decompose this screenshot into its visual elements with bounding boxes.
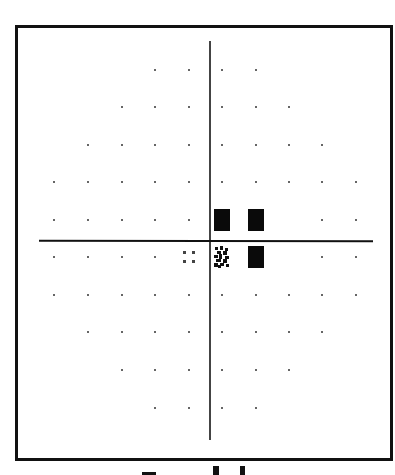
dot-icon xyxy=(188,69,191,72)
field-point-dot xyxy=(113,208,131,232)
field-point-dot xyxy=(79,208,97,232)
dot-icon xyxy=(355,256,358,259)
field-point-dot xyxy=(213,58,231,82)
dot-icon xyxy=(288,144,291,147)
field-point-dot xyxy=(113,170,131,194)
black-square-icon xyxy=(248,209,264,231)
field-point-dot xyxy=(146,208,164,232)
field-point-dot xyxy=(146,245,164,269)
field-point-dot xyxy=(180,133,198,157)
field-point-dot xyxy=(313,170,331,194)
dot-icon xyxy=(154,106,157,109)
dot-icon xyxy=(188,144,191,147)
field-point-dot xyxy=(280,133,298,157)
dot-icon xyxy=(221,369,224,372)
dot-icon xyxy=(255,407,258,410)
dot-icon xyxy=(255,144,258,147)
field-point-dot xyxy=(347,283,365,307)
field-point-dot xyxy=(213,358,231,382)
field-point-dot xyxy=(146,396,164,420)
field-point-dot xyxy=(146,95,164,119)
dot-icon xyxy=(53,294,56,297)
dot-icon xyxy=(87,219,90,222)
dot-icon xyxy=(255,181,258,184)
dot-icon xyxy=(321,331,324,334)
black-square-icon xyxy=(248,246,264,268)
field-point-dot xyxy=(113,133,131,157)
dot-icon xyxy=(255,369,258,372)
dot-icon xyxy=(87,331,90,334)
dot-icon xyxy=(321,294,324,297)
field-point-dot xyxy=(313,133,331,157)
field-point-dot xyxy=(180,95,198,119)
dot-icon xyxy=(121,181,124,184)
dot-icon xyxy=(154,294,157,297)
field-point-dot xyxy=(180,283,198,307)
dot-icon xyxy=(154,331,157,334)
dot-icon xyxy=(221,331,224,334)
dot-icon xyxy=(154,144,157,147)
dot-icon xyxy=(255,69,258,72)
field-point-dot xyxy=(313,320,331,344)
field-point-dot xyxy=(45,208,63,232)
dot-icon xyxy=(221,294,224,297)
dot-icon xyxy=(321,256,324,259)
dot-icon xyxy=(355,294,358,297)
field-point-dot xyxy=(180,58,198,82)
dot-icon xyxy=(188,294,191,297)
field-point-dot xyxy=(313,283,331,307)
dot-icon xyxy=(154,256,157,259)
dot-icon xyxy=(53,256,56,259)
field-point-dot xyxy=(146,133,164,157)
field-point-dot xyxy=(146,58,164,82)
field-point-dot xyxy=(280,358,298,382)
field-point-dot xyxy=(113,358,131,382)
field-point-black xyxy=(247,208,265,232)
field-point-dot xyxy=(213,320,231,344)
field-point-dot xyxy=(180,320,198,344)
field-point-dot xyxy=(146,283,164,307)
dot-icon xyxy=(154,69,157,72)
field-point-dot xyxy=(146,320,164,344)
dot-icon xyxy=(288,181,291,184)
field-point-dot xyxy=(113,245,131,269)
field-point-dot xyxy=(180,170,198,194)
plot-frame xyxy=(15,25,393,461)
field-point-dot xyxy=(280,95,298,119)
field-point-dot xyxy=(213,170,231,194)
field-point-dot xyxy=(180,358,198,382)
dot-icon xyxy=(321,181,324,184)
black-square-icon xyxy=(214,209,230,231)
dot-icon xyxy=(221,407,224,410)
dot-icon xyxy=(288,331,291,334)
dot-icon xyxy=(288,369,291,372)
field-point-dot xyxy=(280,170,298,194)
dot-icon xyxy=(154,181,157,184)
dot-icon xyxy=(154,407,157,410)
dot-icon xyxy=(188,219,191,222)
field-point-dot xyxy=(280,320,298,344)
field-point-pattern xyxy=(213,245,231,269)
field-point-black xyxy=(213,208,231,232)
dot-icon xyxy=(87,294,90,297)
dot-icon xyxy=(87,256,90,259)
dot-icon xyxy=(221,181,224,184)
dot-icon xyxy=(53,181,56,184)
dot-icon xyxy=(154,369,157,372)
dot-icon xyxy=(288,106,291,109)
dot-icon xyxy=(188,331,191,334)
field-point-dot xyxy=(113,320,131,344)
field-point-dot xyxy=(313,245,331,269)
field-point-dot xyxy=(79,320,97,344)
dot-icon xyxy=(355,181,358,184)
field-point-dot xyxy=(180,208,198,232)
field-point-dot xyxy=(79,283,97,307)
field-point-dot xyxy=(347,245,365,269)
dot-icon xyxy=(221,106,224,109)
dot-icon xyxy=(188,407,191,410)
field-point-dot xyxy=(213,283,231,307)
field-point-dot xyxy=(247,320,265,344)
dot-icon xyxy=(355,219,358,222)
field-point-dot xyxy=(79,245,97,269)
field-point-dot xyxy=(213,396,231,420)
